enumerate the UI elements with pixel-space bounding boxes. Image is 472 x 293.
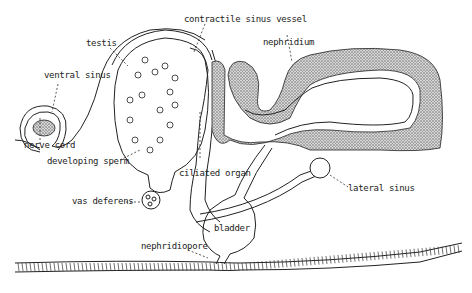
body-wall-hatch (326, 256, 327, 264)
nephridium-shape (212, 48, 443, 150)
body-wall-hatch (294, 259, 295, 267)
body-wall-hatch (230, 263, 231, 271)
body-wall-hatch (338, 255, 339, 263)
label-nephridiopore: nephridiopore (141, 241, 208, 251)
body-wall-hatch (278, 260, 279, 268)
body-wall-hatch (66, 263, 67, 271)
label-nephridium: nephridium (263, 37, 314, 47)
body-wall-hatch (354, 254, 355, 262)
body-wall-hatch (30, 263, 31, 271)
body-wall-hatch (78, 263, 79, 271)
sperm-cell (132, 137, 138, 143)
body-wall-hatch (222, 263, 223, 271)
body-wall-hatch (430, 247, 431, 255)
vas-deferens-shape (142, 191, 160, 209)
label-ciliated-organ: ciliated organ (179, 168, 251, 178)
body-wall-hatch (454, 245, 455, 253)
body-wall-hatch (46, 263, 47, 271)
body-wall-hatch (282, 260, 283, 268)
body-wall-hatch (318, 257, 319, 265)
body-wall-hatch (358, 253, 359, 261)
sperm-cell (139, 92, 145, 98)
body-wall-hatch (414, 249, 415, 257)
body-wall-hatch (442, 246, 443, 254)
label-testis: testis (86, 38, 117, 48)
body-wall-hatch (86, 263, 87, 271)
body-wall-hatch (134, 263, 135, 271)
body-wall-hatch (98, 263, 99, 271)
sperm-cell (152, 69, 158, 75)
label-bladder: bladder (214, 223, 250, 233)
body-wall-hatch (362, 253, 363, 261)
body-wall-hatch (42, 263, 43, 271)
sperm-cell (167, 89, 173, 95)
body-wall-hatch (406, 249, 407, 257)
body-wall-hatch (374, 252, 375, 260)
body-wall (15, 243, 462, 272)
body-wall-hatch (446, 246, 447, 254)
body-wall-hatch (398, 250, 399, 258)
label-vas-deferens: vas deferens (72, 196, 133, 206)
anatomy-diagram: contractile sinus vessel testis nephridi… (0, 0, 472, 293)
sperm-cell (142, 57, 148, 63)
body-wall-hatch (366, 253, 367, 261)
body-wall-hatch (322, 256, 323, 264)
body-wall-hatch (334, 255, 335, 263)
body-wall-hatch (114, 263, 115, 271)
body-wall-hatch (306, 258, 307, 266)
body-wall-hatch (102, 263, 103, 271)
body-wall-hatch (450, 246, 451, 254)
body-wall-hatch (342, 255, 343, 263)
body-wall-hatch (18, 263, 19, 271)
body-wall-hatch (234, 263, 235, 271)
sperm-cell (127, 117, 133, 123)
sperm-cell (127, 97, 133, 103)
sperm-cell (135, 72, 141, 78)
body-wall-hatch (298, 258, 299, 266)
body-wall-hatch (94, 263, 95, 271)
body-wall-hatch (126, 263, 127, 271)
body-wall-hatch (314, 257, 315, 265)
body-wall-hatch (50, 263, 51, 271)
label-contractile-sinus-vessel: contractile sinus vessel (184, 14, 307, 24)
body-wall-hatch (402, 250, 403, 258)
body-wall-hatch (58, 263, 59, 271)
label-developing-sperm: developing sperm (47, 156, 129, 166)
body-wall-hatch (274, 260, 275, 268)
body-wall-hatch (54, 263, 55, 271)
body-wall-hatch (330, 256, 331, 264)
body-wall-hatch (302, 258, 303, 266)
body-wall-hatch (386, 251, 387, 259)
body-wall-hatch (106, 263, 107, 271)
sperm-cell (172, 75, 178, 81)
body-wall-hatch (290, 259, 291, 267)
body-wall-hatch (426, 248, 427, 256)
label-nerve-cord: nerve cord (24, 140, 75, 150)
body-wall-hatch (286, 259, 287, 267)
body-wall-hatch (246, 263, 247, 271)
body-wall-hatch (250, 262, 251, 270)
body-wall-hatch (90, 263, 91, 271)
body-wall-hatch (310, 257, 311, 265)
body-wall-hatch (382, 251, 383, 259)
body-wall-hatch (422, 248, 423, 256)
sperm-cell (167, 122, 173, 128)
body-wall-hatch (418, 248, 419, 256)
body-wall-hatch (82, 263, 83, 271)
body-wall-hatch (70, 263, 71, 271)
body-wall-hatch (390, 251, 391, 259)
body-wall-hatch (118, 263, 119, 271)
body-wall-hatch (26, 263, 27, 271)
body-wall-hatch (218, 263, 219, 271)
body-wall-hatch (410, 249, 411, 257)
sperm-cell (157, 107, 163, 113)
sperm-cell (172, 102, 178, 108)
body-wall-hatch (34, 263, 35, 271)
body-wall-hatch (346, 254, 347, 262)
sperm-cell (162, 63, 168, 69)
body-wall-hatch (378, 252, 379, 260)
body-wall-hatch (350, 254, 351, 262)
nerve-cord-shape (33, 120, 55, 136)
label-lateral-sinus: lateral sinus (348, 183, 415, 193)
label-ventral-sinus: ventral sinus (44, 70, 111, 80)
